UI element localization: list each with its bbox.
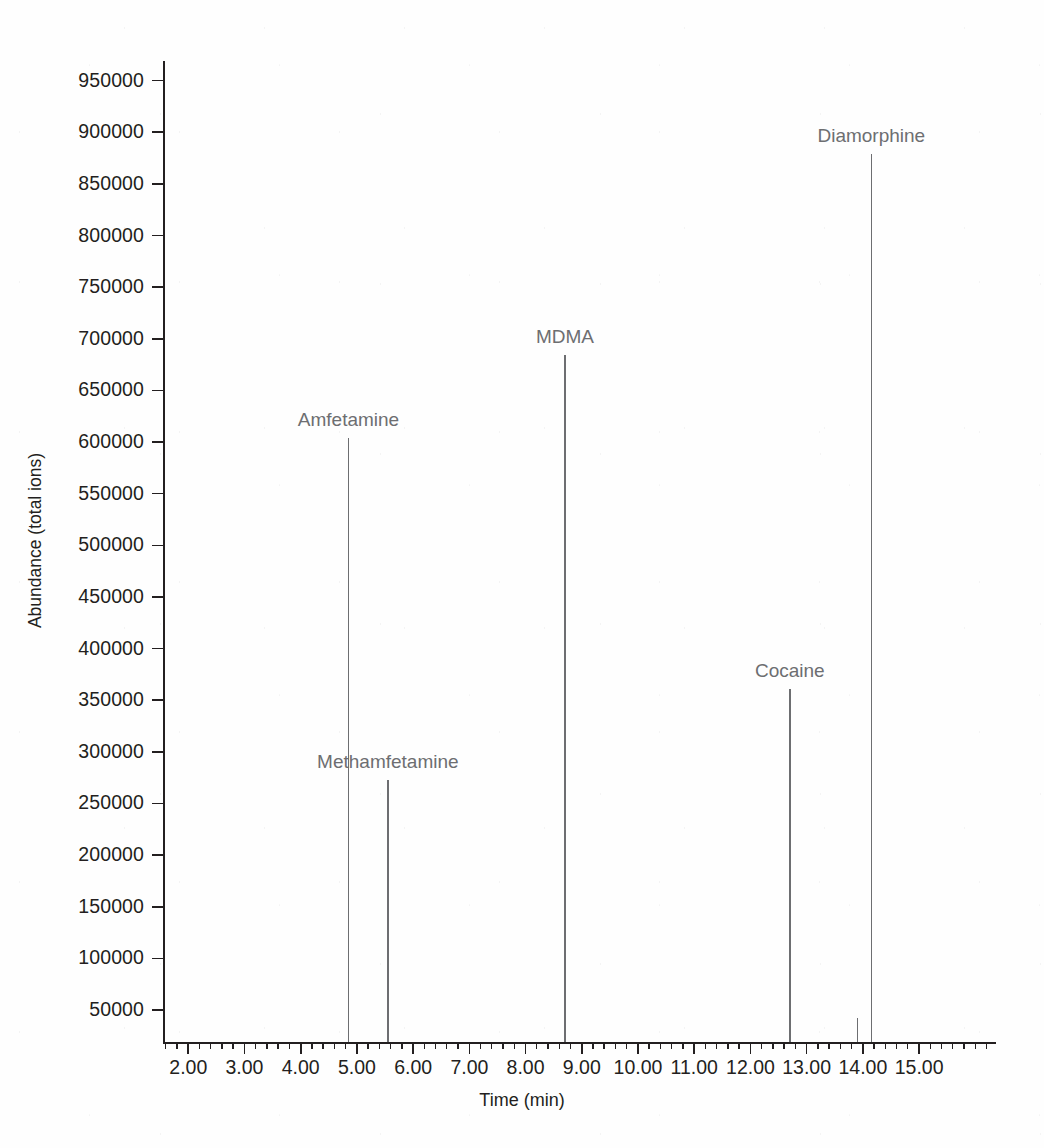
y-tick [152,699,163,701]
x-tick-major [412,1043,414,1054]
x-tick-minor [457,1043,458,1049]
x-tick-minor [907,1043,908,1049]
x-tick-minor [851,1043,852,1049]
y-axis-title: Abundance (total ions) [25,411,46,671]
x-tick-minor [828,1043,829,1049]
peak-label: MDMA [415,327,715,346]
x-tick-minor [210,1043,211,1049]
x-tick-minor [232,1043,233,1049]
x-tick-minor [379,1043,380,1049]
x-tick-minor [390,1043,391,1049]
peak-trace [871,154,873,1042]
x-tick-minor [772,1043,773,1049]
x-tick-minor [873,1043,874,1049]
y-tick [152,390,163,392]
x-tick-major [862,1043,864,1054]
x-tick-minor [986,1043,987,1049]
y-tick-label: 850000 [4,174,144,194]
x-tick-minor [367,1043,368,1049]
x-tick-minor [547,1043,548,1049]
y-tick-label: 900000 [4,122,144,142]
y-tick [152,751,163,753]
peak-trace [564,355,566,1042]
y-axis-line [163,61,165,1043]
x-axis-title: Time (min) [0,1090,1044,1111]
y-tick [152,648,163,650]
x-tick-minor [615,1043,616,1049]
y-tick-label: 650000 [4,380,144,400]
x-tick-minor [783,1043,784,1049]
x-tick-major [469,1043,471,1054]
y-tick-label: 100000 [4,948,144,968]
x-tick-minor [626,1043,627,1049]
y-tick [152,958,163,960]
y-tick [152,235,163,237]
x-tick-major [918,1043,920,1054]
x-tick-minor [446,1043,447,1049]
x-tick-minor [424,1043,425,1049]
x-tick-minor [435,1043,436,1049]
y-tick [152,338,163,340]
x-tick-minor [885,1043,886,1049]
x-tick-minor [480,1043,481,1049]
x-tick-minor [277,1043,278,1049]
x-tick-minor [334,1043,335,1049]
x-tick-minor [221,1043,222,1049]
y-tick [152,183,163,185]
x-tick-minor [716,1043,717,1049]
paper-texture [0,0,1044,1148]
x-tick-minor [559,1043,560,1049]
x-tick-major [806,1043,808,1054]
peak-label: Cocaine [640,661,940,680]
x-tick-minor [952,1043,953,1049]
x-tick-minor [199,1043,200,1049]
y-tick-label: 700000 [4,329,144,349]
peak-trace [348,438,350,1042]
x-tick-minor [975,1043,976,1049]
x-tick-minor [491,1043,492,1049]
y-tick [152,545,163,547]
peak-trace [387,780,389,1042]
x-tick-minor [401,1043,402,1049]
y-tick [152,441,163,443]
y-tick-label: 150000 [4,897,144,917]
x-tick-minor [930,1043,931,1049]
x-tick-minor [727,1043,728,1049]
x-tick-minor [738,1043,739,1049]
y-tick [152,596,163,598]
chromatogram-chart: 5000010000015000020000025000030000035000… [0,0,1044,1148]
x-tick-minor [941,1043,942,1049]
x-tick-minor [795,1043,796,1049]
x-tick-minor [255,1043,256,1049]
x-tick-minor [514,1043,515,1049]
x-tick-minor [682,1043,683,1049]
x-tick-minor [671,1043,672,1049]
y-tick [152,286,163,288]
x-tick-minor [176,1043,177,1049]
y-tick-label: 800000 [4,226,144,246]
x-tick-minor [705,1043,706,1049]
peak-trace [857,1018,859,1042]
x-tick-minor [592,1043,593,1049]
x-tick-major [581,1043,583,1054]
x-tick-label: 15.00 [874,1056,964,1078]
x-tick-minor [603,1043,604,1049]
y-tick [152,906,163,908]
peak-label: Amfetamine [199,410,499,429]
y-tick [152,131,163,133]
x-tick-minor [536,1043,537,1049]
peak-label: Diamorphine [721,126,1021,145]
x-tick-major [525,1043,527,1054]
x-tick-minor [648,1043,649,1049]
x-tick-major [356,1043,358,1054]
y-tick [152,803,163,805]
x-tick-major [244,1043,246,1054]
y-tick-label: 300000 [4,742,144,762]
y-tick [152,80,163,82]
x-tick-minor [817,1043,818,1049]
peak-trace [789,689,791,1042]
x-tick-major [693,1043,695,1054]
x-tick-major [637,1043,639,1054]
y-tick-label: 50000 [4,1000,144,1020]
x-tick-minor [896,1043,897,1049]
